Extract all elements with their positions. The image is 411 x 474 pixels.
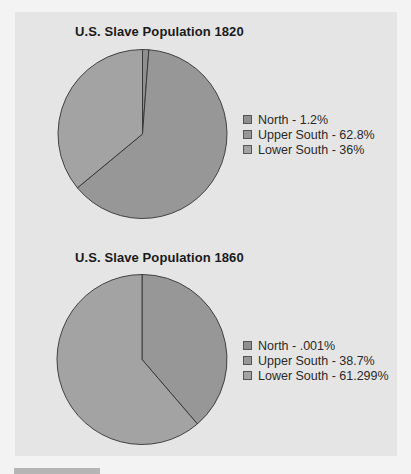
legend-item-lower-south: Lower South - 61.299% [243, 368, 389, 383]
swatch-lower-south [243, 371, 252, 380]
legend-item-upper-south: Upper South - 38.7% [243, 353, 389, 368]
scroll-indicator-bar [14, 468, 100, 474]
pie-chart-1860 [0, 0, 411, 474]
swatch-north [243, 341, 252, 350]
legend-item-north: North - .001% [243, 338, 389, 353]
legend-label: Upper South - 38.7% [258, 354, 375, 368]
legend-label: Lower South - 61.299% [258, 369, 389, 383]
swatch-upper-south [243, 356, 252, 365]
legend-1860: North - .001% Upper South - 38.7% Lower … [243, 338, 389, 383]
legend-label: North - .001% [258, 339, 335, 353]
